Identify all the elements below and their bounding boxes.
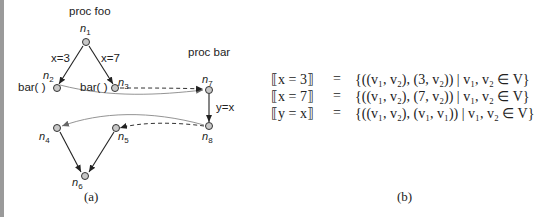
eq-row-1-lhs: ⟦x = 3⟧: [271, 71, 314, 88]
node-n8-label: n8: [202, 130, 213, 145]
proc-foo-label: proc foo: [69, 5, 111, 17]
node-n6-label: n6: [72, 176, 83, 191]
call-label-n3: bar( ): [80, 81, 107, 93]
node-n1-label: n1: [80, 22, 91, 37]
node-n7-label: n7: [202, 73, 213, 88]
node-n5-label: n5: [118, 130, 129, 145]
node-n3-label: n3: [118, 76, 129, 91]
edge-label-x7: x=7: [101, 52, 120, 64]
eq-row-1-eq: =: [333, 71, 341, 87]
edge-label-x3: x=3: [51, 52, 70, 64]
eq-row-3-rhs: {((v₁, v₂), (v₁, v₁)) | v₁, v₂ ∈ V}: [355, 105, 534, 122]
node-n4-label: n4: [39, 130, 50, 145]
eq-row-2-eq: =: [333, 88, 341, 104]
call-label-n2: bar( ): [18, 81, 45, 93]
caption-a: (a): [84, 189, 98, 205]
eq-row-2-rhs: {((v₁, v₂), (7, v₂)) | v₁, v₂ ∈ V}: [355, 88, 529, 105]
eq-row-3-eq: =: [333, 105, 341, 121]
eq-row-3-lhs: ⟦y = x⟧: [271, 105, 314, 122]
eq-row-2-lhs: ⟦x = 7⟧: [271, 88, 314, 105]
edge-label-yx: y=x: [216, 101, 234, 113]
proc-bar-label: proc bar: [188, 46, 230, 58]
eq-row-1-rhs: {((v₁, v₂), (3, v₂)) | v₁, v₂ ∈ V}: [355, 71, 529, 88]
caption-b: (b): [397, 189, 412, 205]
